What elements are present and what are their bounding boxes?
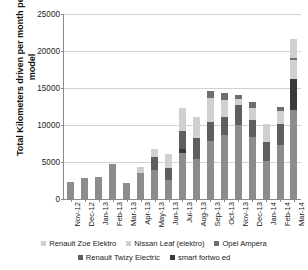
- bar-column[interactable]: [231, 14, 245, 199]
- bar-stack[interactable]: [109, 164, 116, 199]
- y-tick-label: 10000: [37, 121, 60, 130]
- bar-segment[interactable]: [249, 120, 256, 137]
- bar-stack[interactable]: [151, 149, 158, 199]
- bar-segment[interactable]: [151, 170, 158, 199]
- bar-segment[interactable]: [109, 164, 116, 199]
- bar-segment[interactable]: [207, 122, 214, 141]
- bar-column[interactable]: [245, 14, 259, 199]
- y-tick-label: 0: [55, 195, 60, 204]
- bar-column[interactable]: [287, 14, 301, 199]
- x-label-cell: Apr-13: [133, 202, 147, 238]
- bar-stack[interactable]: [137, 167, 144, 199]
- bar-stack[interactable]: [179, 108, 186, 199]
- bar-segment[interactable]: [221, 93, 228, 100]
- bar-segment[interactable]: [207, 91, 214, 98]
- bar-segment[interactable]: [151, 149, 158, 157]
- legend-item[interactable]: Renault Twizy Electric: [78, 253, 160, 262]
- bar-column[interactable]: [148, 14, 162, 199]
- bar-column[interactable]: [189, 14, 203, 199]
- bar-column[interactable]: [92, 14, 106, 199]
- bar-stack[interactable]: [221, 93, 228, 199]
- bar-segment[interactable]: [151, 157, 158, 170]
- bar-segment[interactable]: [137, 173, 144, 199]
- y-axis-title: Total Kilometers driven per month per ca…: [15, 0, 41, 157]
- x-axis-tick-label: Mar-14: [297, 202, 306, 226]
- bar-stack[interactable]: [165, 154, 172, 199]
- bar-column[interactable]: [273, 14, 287, 199]
- plot-inner: 2500020000150001000050000: [63, 14, 301, 200]
- bar-segment[interactable]: [263, 142, 270, 161]
- bar-segment[interactable]: [193, 138, 200, 159]
- x-label-cell: Jun-13: [161, 202, 175, 238]
- bar-segment[interactable]: [221, 135, 228, 199]
- bar-segment[interactable]: [235, 125, 242, 199]
- bar-column[interactable]: [78, 14, 92, 199]
- x-label-cell: Jan-13: [91, 202, 105, 238]
- bar-column[interactable]: [120, 14, 134, 199]
- bar-segment[interactable]: [81, 178, 88, 199]
- bar-stack[interactable]: [193, 117, 200, 199]
- bar-stack[interactable]: [67, 182, 74, 199]
- bar-column[interactable]: [106, 14, 120, 199]
- bar-segment[interactable]: [277, 111, 284, 124]
- chart-legend: Renault Zoe ElektroNissan Leaf (elektro)…: [0, 236, 308, 264]
- bar-segment[interactable]: [249, 137, 256, 199]
- bar-column[interactable]: [134, 14, 148, 199]
- legend-row-primary: Renault Zoe ElektroNissan Leaf (elektro)…: [0, 236, 308, 250]
- x-label-cell: Jan-14: [259, 202, 273, 238]
- bar-stack[interactable]: [123, 183, 130, 199]
- bar-stack[interactable]: [263, 124, 270, 199]
- bar-stack[interactable]: [277, 107, 284, 199]
- x-label-cell: May-13: [147, 202, 161, 238]
- x-label-cell: Feb-14: [273, 202, 287, 238]
- bar-segment[interactable]: [290, 39, 297, 58]
- bar-column[interactable]: [217, 14, 231, 199]
- bar-column[interactable]: [162, 14, 176, 199]
- bar-segment[interactable]: [221, 117, 228, 135]
- bar-segment[interactable]: [207, 141, 214, 199]
- bar-segment[interactable]: [249, 108, 256, 121]
- legend-item[interactable]: Nissan Leaf (elektro): [126, 239, 204, 248]
- bar-segment[interactable]: [290, 60, 297, 79]
- bar-column[interactable]: [64, 14, 78, 199]
- legend-swatch-icon: [170, 255, 175, 260]
- bar-segment[interactable]: [165, 168, 172, 181]
- legend-item[interactable]: smart fortwo ed: [170, 253, 230, 262]
- bar-stack[interactable]: [290, 39, 297, 199]
- bar-segment[interactable]: [277, 124, 284, 145]
- bar-segment[interactable]: [235, 105, 242, 126]
- bar-stack[interactable]: [235, 95, 242, 199]
- bar-segment[interactable]: [290, 110, 297, 199]
- legend-label: Renault Zoe Elektro: [49, 239, 116, 248]
- bar-segment[interactable]: [165, 180, 172, 199]
- bar-segment[interactable]: [95, 177, 102, 199]
- bar-stack[interactable]: [95, 177, 102, 199]
- legend-item[interactable]: Opel Ampera: [214, 239, 266, 248]
- bar-column[interactable]: [176, 14, 190, 199]
- bar-segment[interactable]: [277, 145, 284, 199]
- bar-column[interactable]: [259, 14, 273, 199]
- bar-segment[interactable]: [221, 100, 228, 117]
- bar-segment[interactable]: [179, 153, 186, 199]
- bar-stack[interactable]: [249, 102, 256, 199]
- y-tick-label: 25000: [37, 10, 60, 19]
- bar-segment[interactable]: [165, 154, 172, 168]
- legend-item[interactable]: Renault Zoe Elektro: [41, 239, 116, 248]
- bar-segment[interactable]: [67, 182, 74, 199]
- bar-segment[interactable]: [193, 117, 200, 138]
- bar-segment[interactable]: [263, 161, 270, 199]
- bar-segment[interactable]: [207, 98, 214, 122]
- bar-segment[interactable]: [193, 159, 200, 199]
- legend-row-secondary: Renault Twizy Electricsmart fortwo ed: [0, 250, 308, 264]
- bar-segment[interactable]: [290, 79, 297, 110]
- bar-segment[interactable]: [263, 124, 270, 142]
- bar-segment[interactable]: [179, 131, 186, 149]
- bar-segment[interactable]: [123, 183, 130, 199]
- bar-column[interactable]: [203, 14, 217, 199]
- bar-stack[interactable]: [81, 178, 88, 199]
- x-label-cell: Jul-13: [175, 202, 189, 238]
- bar-stack[interactable]: [207, 91, 214, 199]
- legend-label: Opel Ampera: [222, 239, 266, 248]
- bar-segment[interactable]: [179, 108, 186, 131]
- x-axis-labels: Nov-12Dec-12Jan-13Feb-13Mar-13Apr-13May-…: [63, 202, 301, 238]
